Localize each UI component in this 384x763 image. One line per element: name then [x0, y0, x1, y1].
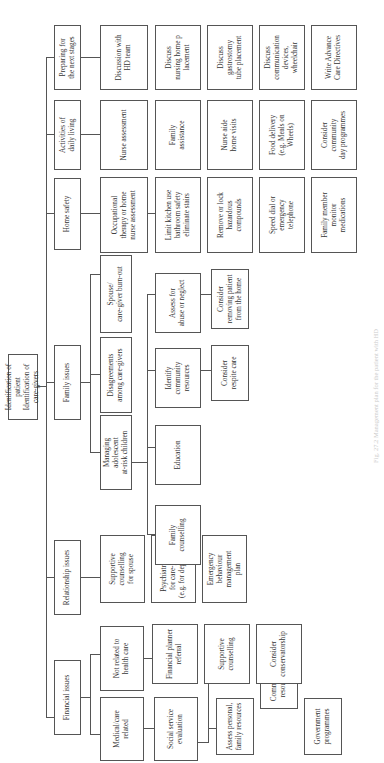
category-family: Family issues — [54, 345, 81, 420]
connector — [147, 534, 155, 535]
remove-lock-hazardous: Remove or lock hazardous compounds — [207, 177, 253, 253]
managing-adolescent-children: Managing adolescent at-risk children — [100, 415, 132, 490]
connector — [208, 728, 216, 729]
connector — [46, 213, 54, 214]
figure-caption: Fig. 27.2 Management plan for the patien… — [372, 329, 379, 463]
government-programmes: Government programmes — [304, 698, 342, 755]
connector — [147, 295, 148, 535]
supportive-counselling-spouse: Supportive counselling for spouse — [100, 535, 145, 603]
connector — [46, 717, 54, 718]
family-monitor-medications: Family member monitor medications — [311, 177, 357, 253]
connector — [147, 447, 155, 448]
flowchart-diagram: Identification of patient Identification… — [0, 0, 384, 763]
discuss-nursing-home: Discuss nursing home p lacement — [155, 25, 201, 90]
discuss-gastrostomy: Discuss gastrostomy tube placement — [207, 25, 253, 90]
connector — [81, 382, 90, 383]
connector — [90, 374, 100, 375]
medicalcare-related: Medical/care related — [100, 697, 144, 761]
connector — [201, 370, 211, 371]
connector — [144, 728, 154, 729]
discuss-communication-devices: Discuss communication devices, wheelchai… — [259, 25, 305, 90]
category-adl: Activities of daily living — [54, 100, 81, 170]
connector — [201, 294, 211, 295]
connector — [81, 213, 100, 214]
spouse-caregiver-burnout: Spouse/ care-giver burn-out — [100, 255, 132, 333]
connector — [147, 370, 155, 371]
category-financial: Financial issues — [54, 660, 81, 735]
consider-conservatorship: Consider conservatorship — [256, 624, 302, 684]
connector — [81, 134, 100, 135]
emergency-behaviour-plan: Emergency behaviour management plan — [202, 535, 247, 603]
family-counselling: Family counselling — [155, 505, 201, 565]
consider-respite-care: Consider respite care — [211, 345, 249, 401]
not-related-health-care: Not related to health care — [100, 626, 144, 691]
identify-community-resources: Identify community resources — [155, 348, 201, 408]
connector — [198, 742, 208, 743]
write-advance-directives: Write Advance Care Directives — [311, 25, 357, 90]
supportive-counselling: Supportive counselling — [204, 624, 250, 684]
education: Education — [155, 425, 201, 485]
connector — [46, 134, 54, 135]
connector — [81, 57, 100, 58]
discussion-hd-team: Discussion with HD team — [100, 25, 148, 90]
financial-planner-referral: Financial planner referral — [152, 624, 198, 684]
speed-dial-telephone: Speed dial or emergency telephone — [259, 177, 305, 253]
connector — [90, 275, 91, 453]
connector — [90, 274, 100, 275]
connector — [46, 57, 54, 58]
category-home-safety: Home safety — [54, 178, 81, 250]
limit-kitchen-use: Limit kitchen use bathroom safety elimin… — [155, 177, 201, 253]
category-preparing: Preparing for the next stages — [54, 25, 81, 90]
connector — [46, 577, 54, 578]
connector — [38, 386, 46, 387]
connector — [147, 294, 155, 295]
family-assistance: Family assistance — [155, 100, 201, 170]
connector — [46, 58, 47, 718]
consider-removing-patient: Consider removing patient from the home — [211, 269, 249, 329]
social-service-evaluation: Social service evaluation — [154, 697, 198, 761]
connector — [90, 654, 100, 655]
connector — [81, 577, 100, 578]
nurse-aide-home-visits: Nurse aide home visits — [207, 100, 253, 170]
category-relationship: Relationship issues — [54, 540, 81, 615]
nurse-assessment: Nurse assessment — [100, 100, 148, 170]
community-day-programmes: Consider community day programmes — [311, 100, 357, 170]
disagreements-care-givers: Disagreements among care-givers — [100, 337, 132, 413]
connector — [90, 734, 100, 735]
assess-personal-family-resources: Assess personal, family resources — [216, 698, 254, 755]
connector — [46, 382, 54, 383]
occupational-therapy: Occupational therapy or home nurse asses… — [100, 177, 148, 253]
connector — [90, 452, 100, 453]
connector — [81, 697, 90, 698]
connector — [132, 462, 147, 463]
connector — [148, 213, 155, 214]
root-box: Identification of patient Identification… — [8, 354, 38, 420]
food-delivery: Food delivery (e.g. Meals on Wheels) — [259, 100, 305, 170]
assess-abuse-neglect: Assess for abuse or neglect — [155, 273, 201, 333]
connector — [90, 655, 91, 735]
